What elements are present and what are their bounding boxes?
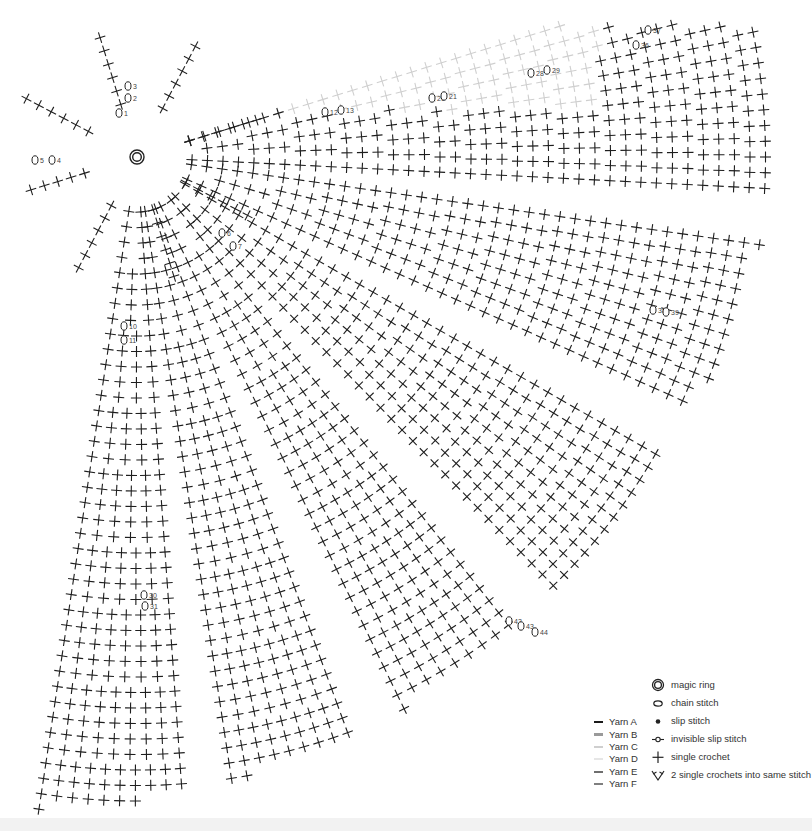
legend-label: magic ring — [671, 678, 715, 691]
legend-label: chain stitch — [671, 696, 719, 709]
svg-text:2: 2 — [133, 95, 137, 102]
yarn-label: Yarn C — [609, 741, 638, 753]
legend-label: invisible slip stitch — [671, 732, 747, 745]
yarn-legend-row: Yarn D — [594, 753, 654, 765]
magic-ring-icon — [651, 678, 665, 692]
svg-text:29: 29 — [552, 67, 560, 74]
yarn-label: Yarn B — [609, 729, 637, 741]
svg-text:12: 12 — [330, 109, 338, 116]
yarn-legend-row: Yarn A — [594, 716, 654, 728]
yarn-a-swatch — [594, 721, 603, 723]
svg-text:4: 4 — [57, 157, 61, 164]
svg-text:7: 7 — [238, 243, 242, 250]
svg-text:5: 5 — [40, 157, 44, 164]
magic-ring-center — [130, 150, 144, 164]
increase-icon — [651, 768, 665, 782]
yarn-label: Yarn E — [609, 766, 637, 778]
svg-text:21: 21 — [449, 93, 457, 100]
yarn-legend-row: Yarn C — [594, 741, 654, 753]
slip-stitch-icon — [651, 714, 665, 728]
svg-text:3: 3 — [133, 83, 137, 90]
legend-row-single-crochet: single crochet — [651, 750, 811, 764]
legend-label: slip stitch — [671, 714, 710, 727]
yarn-label: Yarn D — [609, 753, 638, 765]
yarn-legend-row: Yarn E — [594, 766, 654, 778]
svg-text:39: 39 — [671, 309, 679, 316]
legend-row-increase: 2 single crochets into same stitch — [651, 768, 811, 782]
legend-label: single crochet — [671, 750, 730, 763]
svg-text:1: 1 — [124, 110, 128, 117]
yarn-b-swatch — [594, 733, 603, 735]
yarn-label: Yarn F — [609, 778, 637, 790]
svg-text:13: 13 — [346, 107, 354, 114]
svg-text:11: 11 — [129, 337, 136, 344]
svg-text:36: 36 — [641, 42, 649, 49]
svg-text:10: 10 — [129, 323, 137, 330]
legend-label: 2 single crochets into same stitch — [671, 768, 811, 781]
legend-row-invisible-slip-stitch: invisible slip stitch — [651, 732, 811, 746]
yarn-f-swatch — [594, 783, 603, 785]
svg-text:31: 31 — [150, 603, 158, 610]
yarn-legend-row: Yarn F — [594, 778, 654, 790]
chain-stitch-icon — [651, 696, 665, 710]
symbol-legend: magic ring chain stitch slip stitch invi… — [651, 678, 811, 786]
svg-text:30: 30 — [149, 592, 157, 599]
legend-row-slip-stitch: slip stitch — [651, 714, 811, 728]
svg-text:28: 28 — [536, 70, 544, 77]
yarn-label: Yarn A — [609, 716, 637, 728]
legend-row-magic-ring: magic ring — [651, 678, 811, 692]
svg-text:37: 37 — [653, 27, 661, 34]
svg-text:6: 6 — [227, 230, 231, 237]
legend-row-chain-stitch: chain stitch — [651, 696, 811, 710]
yarn-legend: Yarn A Yarn B Yarn C Yarn D Yarn E Yarn … — [594, 716, 654, 790]
yarn-legend-row: Yarn B — [594, 728, 654, 740]
single-crochet-icon — [651, 750, 665, 764]
page-bottom-edge — [0, 818, 812, 831]
invisible-slip-stitch-icon — [651, 732, 665, 746]
yarn-e-swatch — [594, 771, 603, 773]
svg-text:44: 44 — [540, 629, 548, 636]
yarn-c-swatch — [594, 746, 603, 748]
yarn-d-swatch — [594, 758, 603, 760]
